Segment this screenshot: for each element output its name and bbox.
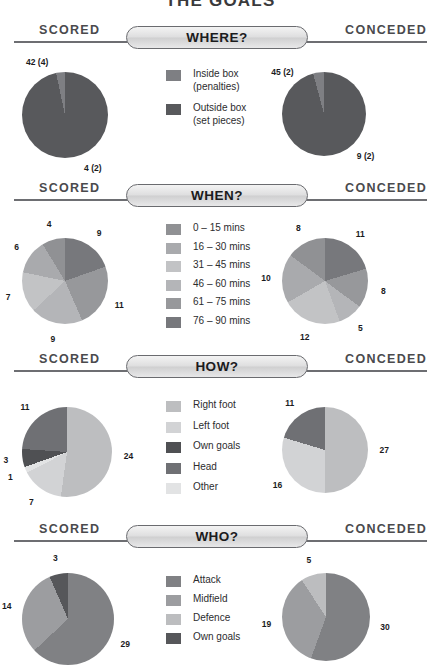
- legend-item: Attack: [166, 574, 240, 587]
- legend-swatch: [166, 595, 181, 606]
- infographic-page: THE GOALS SCORED CONCEDED WHERE? 4 (2)42…: [0, 0, 441, 668]
- legend-label: Attack: [193, 574, 221, 587]
- pie-slice-label: 4 (2): [84, 163, 101, 173]
- pie: [282, 72, 366, 156]
- legend-where: Inside box (penalties)Outside box (set p…: [166, 68, 246, 136]
- legend-item: Left foot: [166, 420, 240, 433]
- section-header-band: SCORED CONCEDED WHEN?: [0, 178, 441, 208]
- legend-item: 76 – 90 mins: [166, 315, 250, 328]
- legend-label: Midfield: [193, 593, 227, 606]
- section-title-pill: WHEN?: [126, 184, 308, 207]
- legend-swatch: [166, 280, 181, 291]
- legend-item: Own goals: [166, 440, 240, 453]
- section-title: WHEN?: [191, 188, 243, 203]
- band-label-scored: SCORED: [39, 23, 100, 37]
- legend-label: Defence: [193, 612, 230, 625]
- pie-chart-conceded: 9 (2)45 (2): [282, 72, 366, 156]
- pie-slice-label: 11: [285, 398, 294, 408]
- section-where: SCORED CONCEDED WHERE? 4 (2)42 (4) 9 (2)…: [0, 20, 441, 175]
- legend-swatch: [166, 243, 181, 254]
- section-header-band: SCORED CONCEDED WHO?: [0, 519, 441, 549]
- pie-slice-label: 30: [380, 622, 389, 632]
- pie-slice-label: 8: [381, 286, 386, 296]
- pie: [22, 238, 108, 324]
- pie-slice-label: 8: [296, 223, 301, 233]
- pie-slice-label: 42 (4): [26, 57, 48, 67]
- pie: [22, 72, 108, 158]
- band-label-conceded: CONCEDED: [345, 352, 427, 366]
- legend-who: AttackMidfieldDefenceOwn goals: [166, 574, 240, 650]
- pie-slice-label: 3: [4, 455, 9, 465]
- legend-item: 46 – 60 mins: [166, 278, 250, 291]
- legend-swatch: [166, 614, 181, 625]
- pie-slice-label: 7: [29, 497, 34, 507]
- legend-item: Own goals: [166, 631, 240, 644]
- legend-label: 16 – 30 mins: [193, 241, 250, 254]
- legend-item: Right foot: [166, 399, 240, 412]
- legend-label: Head: [193, 461, 217, 474]
- section-title-pill: HOW?: [126, 355, 308, 378]
- band-label-conceded: CONCEDED: [345, 522, 427, 536]
- legend-how: Right footLeft footOwn goalsHeadOther: [166, 399, 240, 502]
- legend-item: Inside box (penalties): [166, 68, 246, 93]
- pie-slice-label: 14: [2, 601, 11, 611]
- band-label-scored: SCORED: [39, 352, 100, 366]
- legend-swatch: [166, 261, 181, 272]
- legend-swatch: [166, 70, 181, 81]
- legend-label: Own goals: [193, 631, 240, 644]
- legend-swatch: [166, 104, 181, 115]
- band-label-conceded: CONCEDED: [345, 181, 427, 195]
- pie-slice-label: 9: [51, 334, 56, 344]
- pie-slice-label: 45 (2): [271, 67, 293, 77]
- pie-slice-label: 27: [379, 445, 388, 455]
- legend-item: Head: [166, 461, 240, 474]
- legend-swatch: [166, 576, 181, 587]
- pie-chart-scored: 4 (2)42 (4): [22, 72, 108, 158]
- pie-chart-scored: 2471311: [22, 407, 112, 497]
- pie-slice-label: 5: [358, 323, 363, 333]
- legend-item: 0 – 15 mins: [166, 222, 250, 235]
- pie: [22, 573, 114, 665]
- pie-slice-label: 24: [124, 451, 133, 461]
- pie: [282, 407, 368, 493]
- legend-label: Inside box (penalties): [193, 68, 240, 93]
- band-label-conceded: CONCEDED: [345, 23, 427, 37]
- section-title: WHO?: [195, 529, 238, 544]
- section-who: SCORED CONCEDED WHO? 29143 30195 AttackM…: [0, 519, 441, 668]
- legend-swatch: [166, 422, 181, 433]
- pie-slice-label: 9: [97, 228, 102, 238]
- pie-slice-label: 12: [300, 332, 309, 342]
- pie-chart-conceded: 271611: [282, 407, 368, 493]
- section-how: SCORED CONCEDED HOW? 2471311 271611 Righ…: [0, 349, 441, 514]
- legend-swatch: [166, 401, 181, 412]
- pie: [282, 238, 368, 324]
- pie-slice-label: 16: [273, 480, 282, 490]
- section-when: SCORED CONCEDED WHEN? 9119764 118512108 …: [0, 178, 441, 346]
- legend-when: 0 – 15 mins16 – 30 mins31 – 45 mins46 – …: [166, 222, 250, 333]
- section-title-pill: WHERE?: [126, 26, 308, 49]
- pie-slice-label: 11: [356, 229, 365, 239]
- legend-swatch: [166, 463, 181, 474]
- band-label-scored: SCORED: [39, 181, 100, 195]
- pie-slice-label: 5: [306, 555, 311, 565]
- legend-item: Outside box (set pieces): [166, 102, 246, 127]
- section-header-band: SCORED CONCEDED WHERE?: [0, 20, 441, 50]
- legend-item: 61 – 75 mins: [166, 296, 250, 309]
- legend-label: Outside box (set pieces): [193, 102, 246, 127]
- legend-label: 0 – 15 mins: [193, 222, 245, 235]
- pie-slice-label: 11: [115, 300, 124, 310]
- page-title: THE GOALS: [0, 0, 441, 11]
- pie-chart-conceded: 30195: [282, 573, 370, 661]
- legend-item: Other: [166, 481, 240, 494]
- pie-slice-label: 6: [14, 242, 19, 252]
- band-label-scored: SCORED: [39, 522, 100, 536]
- section-title: WHERE?: [186, 30, 248, 45]
- pie-slice-label: 29: [121, 639, 130, 649]
- legend-swatch: [166, 633, 181, 644]
- legend-swatch: [166, 298, 181, 309]
- legend-swatch: [166, 317, 181, 328]
- legend-label: 76 – 90 mins: [193, 315, 250, 328]
- pie-slice-label: 19: [262, 619, 271, 629]
- legend-item: Midfield: [166, 593, 240, 606]
- pie-slice-label: 4: [47, 219, 52, 229]
